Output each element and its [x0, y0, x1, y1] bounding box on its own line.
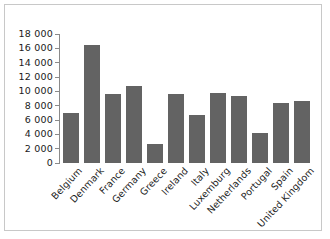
bar-slot [102, 31, 123, 163]
bar[interactable] [294, 101, 310, 163]
y-axis-tick-label: 8 000 [25, 100, 53, 112]
x-axis-category-labels: BelgiumDenmarkFranceGermanyGreeceIreland… [60, 165, 313, 235]
bar-slot [165, 31, 186, 163]
y-axis-tick-label: 4 000 [25, 128, 53, 140]
bar-slot [123, 31, 144, 163]
y-axis-tick: 0 [47, 157, 59, 169]
y-axis-tick: 12 000 [19, 71, 59, 83]
bar-slot [292, 31, 313, 163]
bar[interactable] [252, 133, 268, 163]
y-axis-ticks: 18 00016 00014 00012 00010 0008 0006 000… [5, 5, 59, 239]
bar[interactable] [210, 93, 226, 163]
bar-series [60, 31, 313, 163]
bar-slot [60, 31, 81, 163]
bar[interactable] [84, 45, 100, 163]
bar-slot [81, 31, 102, 163]
y-axis-tick-label: 16 000 [19, 42, 53, 54]
bar-slot [208, 31, 229, 163]
bar-slot [229, 31, 250, 163]
y-axis-tick: 18 000 [19, 28, 59, 40]
y-axis-tick-label: 6 000 [25, 114, 53, 126]
bar[interactable] [168, 94, 184, 163]
bar[interactable] [105, 94, 121, 163]
y-axis-tick: 2 000 [25, 143, 59, 155]
bar[interactable] [147, 144, 163, 163]
y-axis-tick-label: 10 000 [19, 85, 53, 97]
y-axis-tick-label: 0 [47, 157, 53, 169]
y-axis-tick: 6 000 [25, 114, 59, 126]
bar-slot [271, 31, 292, 163]
bar[interactable] [126, 86, 142, 163]
y-axis-tick-label: 14 000 [19, 57, 53, 69]
chart-figure: 18 00016 00014 00012 00010 0008 0006 000… [4, 4, 322, 231]
bar-slot [250, 31, 271, 163]
y-axis-tick: 8 000 [25, 100, 59, 112]
bar-slot [187, 31, 208, 163]
y-axis-tick: 16 000 [19, 42, 59, 54]
y-axis-tick-label: 2 000 [25, 143, 53, 155]
bar[interactable] [231, 96, 247, 163]
y-axis-tick: 10 000 [19, 85, 59, 97]
bar[interactable] [189, 115, 205, 163]
bar[interactable] [63, 113, 79, 163]
y-axis-tick-label: 12 000 [19, 71, 53, 83]
x-axis-line [59, 163, 60, 164]
bar-slot [144, 31, 165, 163]
y-axis-tick-label: 18 000 [19, 28, 53, 40]
bar[interactable] [273, 103, 289, 163]
y-axis-tick: 4 000 [25, 128, 59, 140]
y-axis-tick: 14 000 [19, 57, 59, 69]
